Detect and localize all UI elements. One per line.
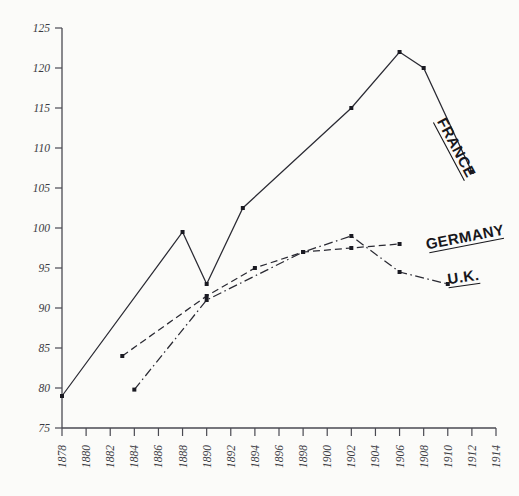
x-tick-label: 1890 — [201, 445, 213, 468]
y-tick-label: 115 — [34, 102, 51, 114]
x-tick-label: 1912 — [466, 445, 478, 468]
data-point-marker — [253, 266, 257, 270]
axes — [62, 28, 496, 428]
x-tick-label: 1914 — [490, 445, 502, 468]
data-point-marker — [398, 50, 402, 54]
series-lines — [62, 52, 472, 396]
series-label-france: FRANCE — [433, 114, 479, 180]
data-point-marker — [205, 282, 209, 286]
series-label-france-text: FRANCE — [434, 115, 479, 180]
series-markers — [60, 50, 474, 398]
data-point-marker — [301, 250, 305, 254]
x-tick-label: 1900 — [321, 445, 333, 468]
data-point-marker — [349, 246, 353, 250]
y-tick-label: 105 — [33, 182, 51, 194]
data-point-marker — [349, 106, 353, 110]
x-tick-label: 1892 — [225, 445, 237, 468]
line-chart: 1251201151101051009590858075 18781880188… — [0, 0, 519, 496]
data-point-marker — [241, 206, 245, 210]
data-point-marker — [398, 270, 402, 274]
y-tick-label: 125 — [33, 22, 51, 34]
series-line-uk — [134, 236, 447, 390]
x-tick-label: 1908 — [418, 445, 430, 468]
x-tick-label: 1898 — [297, 445, 309, 468]
data-point-marker — [205, 294, 209, 298]
y-axis-tick-labels: 1251201151101051009590858075 — [33, 22, 51, 434]
y-tick-label: 100 — [33, 222, 51, 234]
data-point-marker — [60, 394, 64, 398]
x-tick-label: 1878 — [56, 445, 68, 468]
x-tick-label: 1886 — [152, 445, 164, 468]
y-tick-label: 95 — [39, 262, 51, 274]
x-tick-label: 1884 — [128, 445, 140, 468]
data-point-marker — [349, 234, 353, 238]
series-line-france — [62, 52, 472, 396]
x-tick-label: 1894 — [249, 445, 261, 468]
series-line-germany — [122, 244, 399, 356]
x-tick-label: 1896 — [273, 445, 285, 468]
x-axis-ticks — [62, 428, 496, 436]
series-label-germany: GERMANY — [424, 221, 505, 253]
chart-container: 1251201151101051009590858075 18781880188… — [0, 0, 519, 496]
x-tick-label: 1888 — [177, 445, 189, 468]
data-point-marker — [132, 388, 136, 392]
x-tick-label: 1910 — [442, 445, 454, 468]
y-tick-label: 80 — [39, 382, 51, 394]
x-tick-label: 1904 — [369, 445, 381, 468]
x-tick-label: 1906 — [394, 445, 406, 468]
x-tick-label: 1902 — [345, 445, 357, 468]
data-point-marker — [205, 298, 209, 302]
y-tick-label: 75 — [39, 422, 51, 434]
series-label-germany-text: GERMANY — [424, 221, 505, 253]
data-point-marker — [422, 66, 426, 70]
x-axis-tick-labels: 1878188018821884188618881890189218941896… — [56, 445, 502, 468]
data-point-marker — [120, 354, 124, 358]
y-tick-label: 85 — [39, 342, 51, 354]
y-axis-ticks — [55, 28, 62, 428]
x-tick-label: 1882 — [104, 445, 116, 468]
y-tick-label: 120 — [33, 62, 51, 74]
data-point-marker — [398, 242, 402, 246]
y-tick-label: 90 — [39, 302, 51, 314]
x-tick-label: 1880 — [80, 445, 92, 468]
y-tick-label: 110 — [34, 142, 51, 154]
data-point-marker — [181, 230, 185, 234]
series-label-uk: U.K. — [446, 266, 480, 288]
